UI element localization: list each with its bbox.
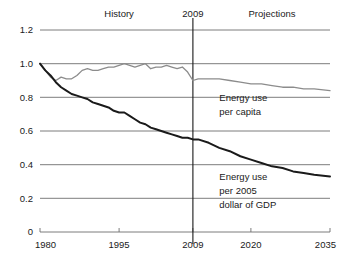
y-tick-label-0.4: 0.4	[20, 159, 33, 170]
chart-canvas: 00.20.40.60.81.01.2 19801995200920202035…	[0, 0, 353, 266]
x-tick-label-1980: 1980	[35, 239, 56, 250]
series-line-0	[40, 64, 330, 91]
data-series	[40, 64, 330, 177]
y-tick-label-0.8: 0.8	[20, 92, 33, 103]
energy-per-gdp-annotation-line-0: Energy use	[219, 171, 267, 182]
x-tick-label-2020: 2020	[240, 239, 261, 250]
gridlines	[40, 30, 330, 198]
energy-per-capita-annotation-line-0: Energy use	[219, 92, 267, 103]
history-label: History	[104, 8, 134, 19]
energy-per-gdp-annotation-line-1: per 2005	[219, 185, 257, 196]
x-axis	[40, 228, 330, 232]
x-tick-label-1995: 1995	[109, 239, 130, 250]
y-tick-label-0: 0	[28, 226, 33, 237]
y-axis-tick-labels: 00.20.40.60.81.01.2	[20, 24, 33, 237]
region-labels: History2009Projections	[104, 8, 295, 19]
projections-label: Projections	[249, 8, 296, 19]
energy-per-gdp-annotation-line-2: dollar of GDP	[219, 199, 276, 210]
divider-label: 2009	[182, 8, 203, 19]
energy-per-capita-annotation-line-1: per capita	[219, 106, 261, 117]
y-tick-label-0.2: 0.2	[20, 193, 33, 204]
y-tick-label-0.6: 0.6	[20, 125, 33, 136]
energy-intensity-chart: 00.20.40.60.81.01.2 19801995200920202035…	[0, 0, 353, 266]
y-tick-label-1.0: 1.0	[20, 58, 33, 69]
x-axis-tick-labels: 19801995200920202035	[35, 239, 336, 250]
series-line-1	[40, 64, 330, 177]
y-tick-label-1.2: 1.2	[20, 24, 33, 35]
x-tick-label-2035: 2035	[315, 239, 336, 250]
